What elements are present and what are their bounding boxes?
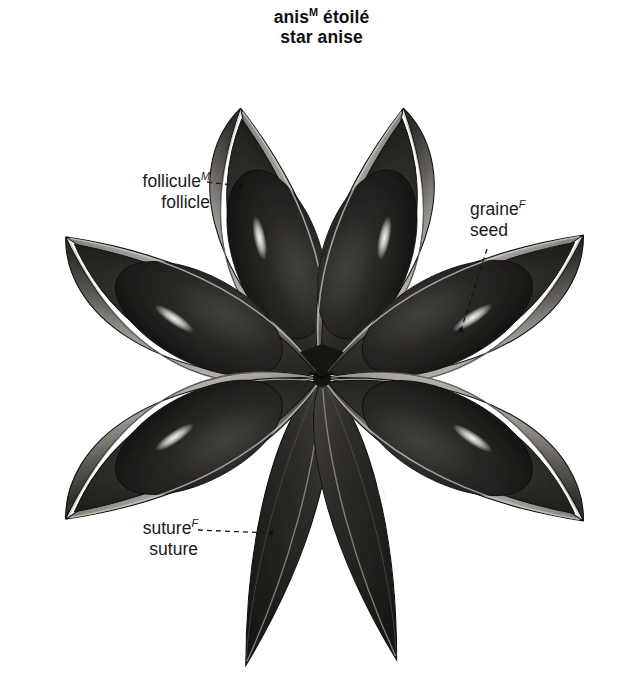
callout-graine-french: graineF (470, 198, 590, 220)
callout-follicule-french: folliculeM (112, 170, 210, 192)
callout-follicule-english: follicle (112, 192, 210, 213)
callout-suture-french: sutureF (126, 517, 198, 539)
callout-graine: graineF seed (470, 198, 590, 241)
star-anise-figure (0, 0, 643, 686)
callout-suture: sutureF suture (126, 517, 198, 560)
illustration-plate: anisM étoilé star anise (0, 0, 643, 686)
callout-suture-english: suture (126, 539, 198, 560)
callout-graine-english: seed (470, 220, 590, 241)
callout-follicule: folliculeM follicle (112, 170, 210, 213)
